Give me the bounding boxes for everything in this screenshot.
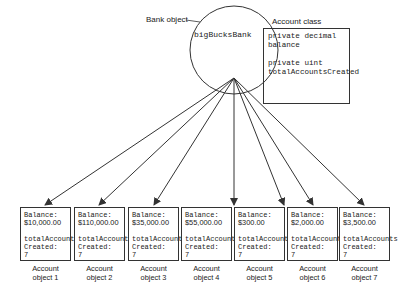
created-label: Created: <box>132 243 175 251</box>
total-accounts-value: 7 <box>291 251 334 259</box>
total-accounts-value: 7 <box>132 251 175 259</box>
total-accounts-label: totalAccounts <box>132 235 175 243</box>
account-object-4: Balance: $55,000.00 totalAccounts Create… <box>181 207 232 261</box>
account-caption-1: Account object 1 <box>20 264 71 282</box>
class-field-balance-name: balance <box>268 41 345 50</box>
account-caption-3: Account object 3 <box>128 264 179 282</box>
account-caption-6: Account object 6 <box>287 264 338 282</box>
created-label: Created: <box>185 243 228 251</box>
caption-line-2: object 5 <box>234 273 285 282</box>
total-accounts-label: totalAccounts <box>24 235 67 243</box>
caption-line-1: Account <box>181 264 232 273</box>
bank-object-label: Bank object <box>146 15 188 25</box>
total-accounts-value: 7 <box>343 251 386 259</box>
total-accounts-label: totalAccounts <box>238 235 281 243</box>
caption-line-2: object 1 <box>20 273 71 282</box>
account-caption-2: Account object 2 <box>74 264 125 282</box>
created-label: Created: <box>343 243 386 251</box>
total-accounts-label: totalAccounts <box>343 235 386 243</box>
class-field-total-name: totalAccountsCreated <box>268 68 345 77</box>
account-object-1: Balance: $10,000.00 totalAccounts Create… <box>20 207 71 261</box>
created-label: Created: <box>291 243 334 251</box>
caption-line-1: Account <box>287 264 338 273</box>
total-accounts-label: totalAccounts <box>291 235 334 243</box>
caption-line-2: object 4 <box>181 273 232 282</box>
balance-value: $35,000.00 <box>132 219 175 227</box>
total-accounts-value: 7 <box>24 251 67 259</box>
balance-value: $300.00 <box>238 219 281 227</box>
account-class-box: private decimal balance private uint tot… <box>263 28 350 104</box>
caption-line-1: Account <box>20 264 71 273</box>
caption-line-1: Account <box>128 264 179 273</box>
diagram-canvas: Bank object bigBucksBank Account class p… <box>0 0 411 295</box>
account-object-7: Balance: $3,500.00 totalAccounts Created… <box>339 207 390 261</box>
balance-value: $3,500.00 <box>343 219 386 227</box>
account-caption-7: Account object 7 <box>339 264 390 282</box>
total-accounts-value: 7 <box>185 251 228 259</box>
arrow-to-account-1 <box>45 78 234 205</box>
caption-line-1: Account <box>339 264 390 273</box>
account-object-2: Balance: $110,000.00 totalAccounts Creat… <box>74 207 125 261</box>
caption-line-2: object 7 <box>339 273 390 282</box>
bank-label-leader <box>186 20 200 22</box>
bank-instance-name: bigBucksBank <box>194 30 252 39</box>
account-caption-5: Account object 5 <box>234 264 285 282</box>
balance-value: $2,000.00 <box>291 219 334 227</box>
account-class-label: Account class <box>272 17 321 27</box>
created-label: Created: <box>24 243 67 251</box>
balance-value: $55,000.00 <box>185 219 228 227</box>
class-field-total-type: private uint <box>268 59 345 68</box>
class-field-balance-type: private decimal <box>268 32 345 41</box>
caption-line-2: object 3 <box>128 273 179 282</box>
total-accounts-label: totalAccounts <box>185 235 228 243</box>
total-accounts-value: 7 <box>238 251 281 259</box>
caption-line-1: Account <box>74 264 125 273</box>
created-label: Created: <box>238 243 281 251</box>
balance-value: $110,000.00 <box>78 219 121 227</box>
caption-line-2: object 6 <box>287 273 338 282</box>
account-object-3: Balance: $35,000.00 totalAccounts Create… <box>128 207 179 261</box>
total-accounts-value: 7 <box>78 251 121 259</box>
total-accounts-label: totalAccounts <box>78 235 121 243</box>
caption-line-2: object 2 <box>74 273 125 282</box>
account-object-5: Balance: $300.00 totalAccounts Created: … <box>234 207 285 261</box>
account-caption-4: Account object 4 <box>181 264 232 282</box>
balance-value: $10,000.00 <box>24 219 67 227</box>
account-object-6: Balance: $2,000.00 totalAccounts Created… <box>287 207 338 261</box>
caption-line-1: Account <box>234 264 285 273</box>
created-label: Created: <box>78 243 121 251</box>
